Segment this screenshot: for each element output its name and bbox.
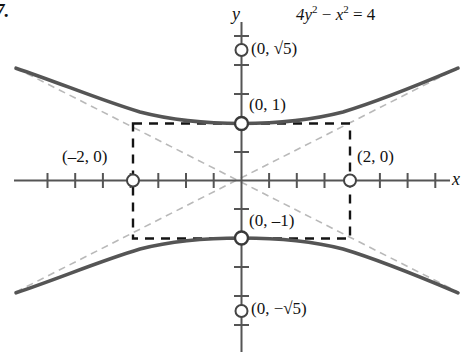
point-label-focus-lower: (0, −√5) <box>251 300 307 317</box>
equation-coef: 4 <box>296 5 305 24</box>
axis-label-x: x <box>452 170 460 188</box>
point-focus-upper <box>236 44 248 56</box>
equation-minus: − <box>318 5 336 24</box>
point-label-right-corner: (2, 0) <box>357 148 394 165</box>
point-label-vertex-upper: (0, 1) <box>249 96 286 113</box>
point-vertex-lower <box>235 232 248 245</box>
problem-number: 7. <box>0 1 9 20</box>
axis-label-y: y <box>232 5 240 23</box>
equation-label: 4y2 − x2 = 4 <box>296 6 375 23</box>
equation-y-var: y <box>305 5 313 24</box>
hyperbola-upper-branch <box>16 68 458 123</box>
point-label-focus-upper: (0, √5) <box>251 40 297 57</box>
point-focus-lower <box>236 305 248 317</box>
point-left-corner <box>127 175 139 187</box>
hyperbola-figure: 7. 4y2 − x2 = 4 y x (0, √5) (0, 1) (0, –… <box>0 0 473 362</box>
point-label-vertex-lower: (0, –1) <box>249 212 294 229</box>
point-label-left-corner: (–2, 0) <box>62 148 107 165</box>
hyperbola-plot <box>0 0 473 362</box>
equation-equals: = 4 <box>349 5 376 24</box>
hyperbola-lower-branch <box>16 238 458 293</box>
axes <box>14 22 450 352</box>
point-vertex-upper <box>235 117 248 130</box>
point-right-corner <box>344 175 356 187</box>
